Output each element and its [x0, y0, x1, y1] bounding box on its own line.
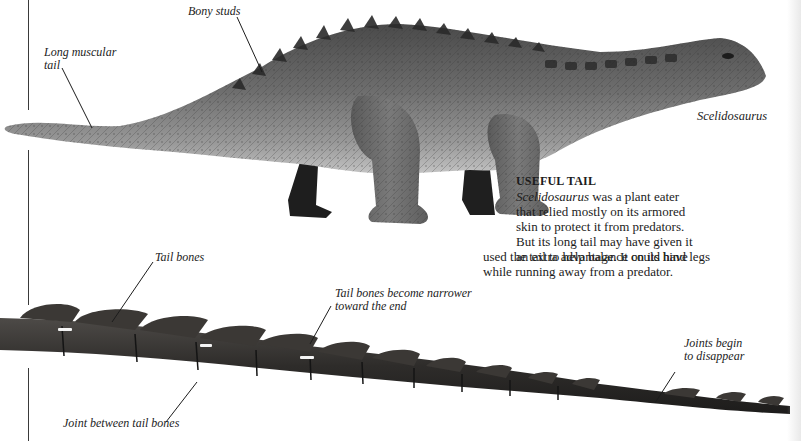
encyclopedia-page: Bony studs Long muscular tail Scelidosau…	[0, 0, 801, 441]
callout-bony-studs: Bony studs	[188, 5, 240, 18]
text-heading: USEFUL TAIL	[516, 174, 693, 189]
callout-joints-disappear: Joints begin to disappear	[684, 337, 744, 363]
callout-joint-between-tail-bones: Joint between tail bones	[63, 417, 179, 430]
text-line-3: skin to protect it from predators.	[516, 219, 693, 234]
species-label: Scelidosaurus	[697, 110, 767, 123]
text-line-1: Scelidosaurus was a plant eater	[516, 189, 693, 204]
callout-narrower-line2: toward the end	[335, 300, 472, 313]
tail-bones-fossil	[0, 304, 790, 414]
callout-tail-bones: Tail bones	[155, 251, 204, 264]
callout-long-muscular-tail-line2: tail	[44, 59, 116, 72]
callout-tail-bones-narrower: Tail bones become narrower toward the en…	[335, 287, 472, 313]
species-name-italic: Scelidosaurus	[516, 189, 589, 204]
text-line-7: while running away from a predator.	[483, 264, 710, 279]
callout-joints-line2: to disappear	[684, 350, 744, 363]
callout-long-muscular-tail: Long muscular tail	[44, 46, 116, 72]
text-line-4: But its long tail may have given it	[516, 234, 693, 249]
text-line-1-rest: was a plant eater	[589, 189, 679, 204]
page-gutter-shadow	[787, 0, 801, 441]
text-line-2: that relied mostly on its armored	[516, 204, 693, 219]
text-line-6: used the tail to help balance on its hin…	[483, 249, 710, 264]
useful-tail-text-tail: used the tail to help balance on its hin…	[515, 249, 710, 279]
